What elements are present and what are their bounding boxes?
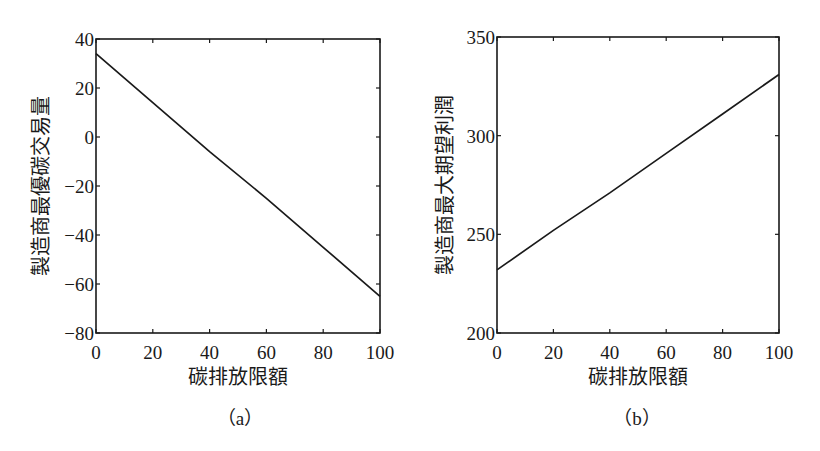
- y-tick-label: 250: [467, 224, 496, 245]
- y-tick-label: 0: [85, 127, 95, 148]
- y-tick-label: 350: [467, 27, 496, 48]
- x-tick-label: 60: [657, 342, 676, 363]
- chart-canvas: 020406080100−80−60−40−2002040碳排放限額製造商最優碳…: [0, 0, 820, 451]
- y-axis-label: 製造商最大期望利潤: [434, 95, 456, 275]
- series-line: [497, 75, 779, 270]
- y-tick-label: −60: [64, 274, 94, 295]
- figure-caption: （b）: [613, 408, 661, 429]
- x-tick-label: 60: [257, 342, 276, 363]
- y-tick-label: 40: [75, 29, 94, 50]
- x-tick-label: 100: [366, 342, 395, 363]
- y-tick-label: −20: [64, 176, 94, 197]
- chart-a: 020406080100−80−60−40−2002040碳排放限額製造商最優碳…: [30, 29, 394, 429]
- y-tick-label: −40: [64, 225, 94, 246]
- x-tick-label: 0: [91, 342, 101, 363]
- x-tick-label: 0: [492, 342, 502, 363]
- x-tick-label: 20: [544, 342, 563, 363]
- plot-frame: [497, 37, 779, 333]
- x-tick-label: 80: [713, 342, 732, 363]
- x-tick-label: 40: [200, 342, 219, 363]
- y-axis-label: 製造商最優碳交易量: [30, 96, 52, 276]
- y-tick-label: −80: [64, 323, 94, 344]
- y-tick-label: 200: [467, 323, 496, 344]
- series-line: [96, 54, 380, 297]
- chart-b: 020406080100200250300350碳排放限額製造商最大期望利潤（b…: [434, 27, 793, 429]
- figure: 020406080100−80−60−40−2002040碳排放限額製造商最優碳…: [0, 0, 820, 451]
- figure-caption: （a）: [217, 408, 263, 429]
- x-tick-label: 100: [765, 342, 794, 363]
- y-tick-label: 300: [467, 126, 496, 147]
- x-axis-label: 碳排放限額: [588, 366, 688, 388]
- x-tick-label: 20: [143, 342, 162, 363]
- x-tick-label: 40: [600, 342, 619, 363]
- plot-frame: [96, 39, 380, 333]
- y-tick-label: 20: [75, 78, 94, 99]
- x-axis-label: 碳排放限額: [188, 366, 288, 388]
- x-tick-label: 80: [314, 342, 333, 363]
